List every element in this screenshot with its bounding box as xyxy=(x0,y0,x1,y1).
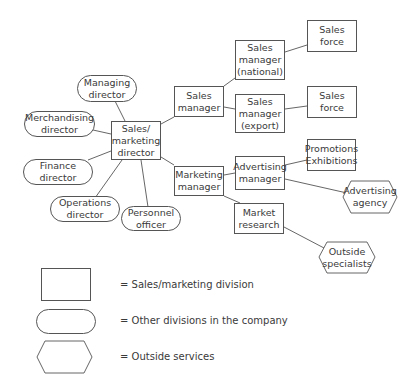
legend-label-outside-services: = Outside services xyxy=(120,351,214,362)
node-finance-director: Finance director xyxy=(23,159,93,185)
legend-label-other-divisions: = Other divisions in the company xyxy=(120,315,288,326)
node-operations-director: Operations director xyxy=(50,196,120,222)
node-personnel-officer: Personnel officer xyxy=(121,206,181,231)
node-merchandising-director: Merchandising director xyxy=(24,111,95,137)
node-promotions-exhibitions: Promotions Exhibitions xyxy=(307,139,356,171)
node-advertising-agency: Advertising agency xyxy=(343,181,397,213)
legend-label-sales-marketing: = Sales/marketing division xyxy=(120,279,254,290)
legend-rounded-shape xyxy=(36,309,96,334)
node-managing-director: Managing director xyxy=(77,75,137,102)
node-sales-manager-export: Sales manager (export) xyxy=(235,94,285,133)
node-sales-manager-national: Sales manager (national) xyxy=(235,40,285,80)
node-outside-specialists: Outside specialists xyxy=(319,242,375,273)
node-sales-manager: Sales manager xyxy=(174,86,224,117)
node-sales-force-national: Sales force xyxy=(307,20,357,52)
node-advertising-manager: Advertising manager xyxy=(235,156,285,190)
legend-rectangle-shape xyxy=(41,268,91,301)
legend-hexagon-shape xyxy=(37,341,92,373)
node-sales-force-export: Sales force xyxy=(307,86,357,118)
node-sales-marketing-director: Sales/ marketing director xyxy=(111,121,161,160)
node-market-research: Market research xyxy=(234,203,284,234)
node-marketing-manager: Marketing manager xyxy=(174,166,224,196)
